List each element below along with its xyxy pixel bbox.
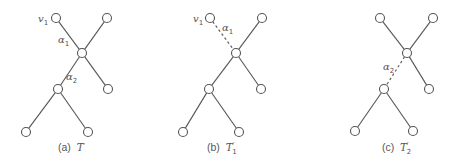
tree-node-c <box>78 49 87 58</box>
panel-a-tree-T: v1α1α2(a) T <box>22 13 113 153</box>
tree-node-rl <box>257 85 266 94</box>
tree-edge-m-br <box>387 93 411 128</box>
tree-node-rl <box>425 85 434 94</box>
tree-node-rl <box>104 85 113 94</box>
tree-node-br <box>409 127 418 136</box>
tree-node-bl <box>179 128 188 137</box>
tree-node-v1 <box>52 14 61 23</box>
panel-caption: (c) T′2 <box>382 141 411 156</box>
tree-node-v1 <box>206 14 215 23</box>
tree-node-tr <box>258 14 267 23</box>
panel-c-tree-T2-prime: α2(c) T′2 <box>351 14 438 157</box>
tree-edge-m-bl <box>29 93 56 129</box>
tree-node-tr <box>429 14 438 23</box>
tree-figure: v1α1α2(a) T v1α1(b) T′1 α2(c) T′2 <box>0 0 458 161</box>
tree-edge-m-bl <box>185 93 206 128</box>
panel-caption: (a) T <box>58 141 85 153</box>
tree-node-m <box>54 85 63 94</box>
edge-label-α1: α1 <box>58 34 69 48</box>
tree-node-m <box>380 85 389 94</box>
tree-edge-tl-c <box>383 22 405 50</box>
vertex-label-v1: v1 <box>193 13 203 27</box>
tree-edge-tr-c <box>410 22 431 50</box>
tree-edge-tr-c <box>85 22 105 50</box>
tree-edge-c-m <box>212 57 234 86</box>
tree-edge-m-bl <box>358 93 382 128</box>
edge-label-α2: α2 <box>383 61 394 75</box>
tree-edge-c-rl <box>239 57 259 86</box>
panel-caption: (b) T′1 <box>207 141 237 156</box>
tree-node-bl <box>22 128 31 137</box>
edge-label-α2: α2 <box>66 71 77 85</box>
tree-node-bl <box>351 127 360 136</box>
panel-b-tree-T1-prime: v1α1(b) T′1 <box>179 13 267 156</box>
tree-edge-m-br <box>61 93 86 129</box>
tree-edge-tr-c <box>239 22 260 50</box>
tree-edge-c-rl <box>409 57 426 85</box>
tree-node-br <box>84 128 93 137</box>
tree-node-tr <box>103 14 112 23</box>
tree-node-tl <box>376 14 385 23</box>
tree-node-c <box>232 49 241 58</box>
tree-node-c <box>403 49 412 58</box>
edge-label-α1: α1 <box>222 22 233 36</box>
tree-edge-c-rl <box>85 57 106 86</box>
tree-edge-m-br <box>212 93 237 129</box>
tree-node-m <box>205 85 214 94</box>
tree-node-br <box>235 128 244 137</box>
vertex-label-v1: v1 <box>38 13 48 27</box>
